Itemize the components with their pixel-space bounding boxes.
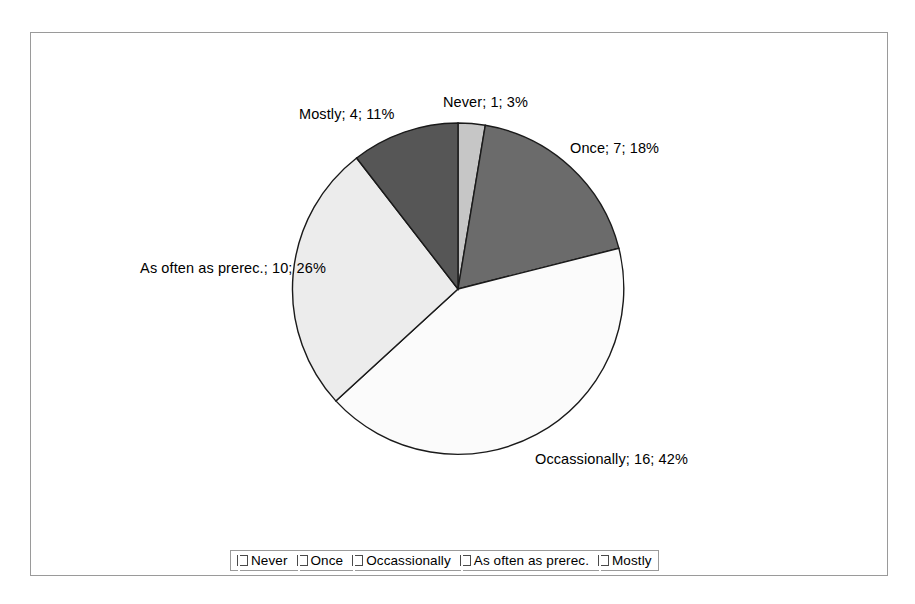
legend-swatch-as-often-as-prerec-fill — [461, 555, 463, 574]
pie-chart-svg — [0, 0, 915, 604]
legend-swatch-occassionally-fill — [353, 555, 355, 574]
legend-swatch-never-icon — [237, 555, 248, 566]
legend-swatch-mostly-icon — [598, 555, 609, 566]
legend-swatch-mostly-fill — [599, 555, 601, 574]
legend-swatch-occassionally-icon — [352, 555, 363, 566]
legend-swatch-once-fill — [298, 555, 300, 574]
chart-legend: Never Once Occassionally As often as pre… — [230, 550, 659, 571]
legend-item-occassionally[interactable]: Occassionally — [352, 553, 451, 568]
legend-label-mostly: Mostly — [612, 553, 652, 568]
legend-item-once[interactable]: Once — [297, 553, 344, 568]
legend-swatch-never-fill — [238, 555, 240, 574]
legend-label-once: Once — [311, 553, 344, 568]
data-label-mostly: Mostly; 4; 11% — [299, 105, 394, 125]
legend-swatch-once-icon — [297, 555, 308, 566]
legend-item-mostly[interactable]: Mostly — [598, 553, 652, 568]
pie-chart-plot-area: Never; 1; 3% Once; 7; 18% Occassionally;… — [0, 0, 915, 604]
legend-label-never: Never — [251, 553, 288, 568]
data-label-as-often-as-prerec: As often as prerec.; 10; 26% — [138, 259, 328, 279]
data-label-never: Never; 1; 3% — [443, 93, 528, 113]
legend-item-never[interactable]: Never — [237, 553, 288, 568]
legend-item-as-often-as-prerec[interactable]: As often as prerec. — [460, 553, 589, 568]
legend-label-as-often-as-prerec: As often as prerec. — [474, 553, 589, 568]
data-label-occassionally: Occassionally; 16; 42% — [535, 450, 688, 470]
legend-label-occassionally: Occassionally — [366, 553, 451, 568]
data-label-once: Once; 7; 18% — [570, 139, 659, 159]
legend-swatch-as-often-as-prerec-icon — [460, 555, 471, 566]
